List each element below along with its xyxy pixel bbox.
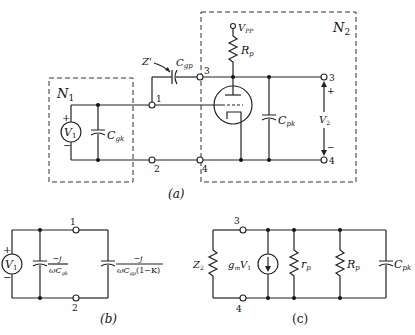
node-4-right-label: 4 bbox=[329, 156, 335, 166]
terminal-1-b bbox=[73, 227, 79, 233]
node-3-right-label: 3 bbox=[329, 73, 335, 83]
gm-v1-label: gmV1 bbox=[228, 259, 251, 271]
terminal-3-c bbox=[240, 227, 246, 233]
resistor-rp-small bbox=[290, 230, 298, 298]
v1-label: V1 bbox=[64, 126, 76, 140]
caption-b: (b) bbox=[100, 312, 117, 326]
z2-label: Z2 bbox=[192, 259, 204, 271]
rp-label-c: Rp bbox=[346, 258, 360, 272]
terminal-3-right bbox=[321, 74, 327, 80]
caption-a: (a) bbox=[168, 187, 185, 201]
terminal-4-left bbox=[197, 157, 203, 163]
n1-label: N1 bbox=[56, 86, 74, 103]
rp-small-label: rp bbox=[301, 258, 311, 272]
node-2-b: 2 bbox=[72, 303, 78, 313]
terminal-2-b bbox=[73, 295, 79, 301]
v1-plus: + bbox=[62, 112, 70, 123]
z2-numerator: −j bbox=[133, 254, 143, 263]
vpp-label: VPP bbox=[238, 22, 254, 34]
resistor-rp-c bbox=[336, 230, 344, 298]
plus-b: + bbox=[3, 244, 11, 255]
figure-c: 3 4 Z2 gmV1 rp Rp Cpk (c) bbox=[192, 216, 411, 326]
tube-cathode bbox=[227, 112, 241, 160]
node-3-c: 3 bbox=[234, 216, 240, 226]
node-1-b: 1 bbox=[70, 217, 76, 227]
v2-label: V2 bbox=[319, 114, 330, 126]
terminal-1 bbox=[149, 102, 155, 108]
terminal-4-c bbox=[240, 295, 246, 301]
cgk-label: Cgk bbox=[107, 129, 124, 143]
terminal-2 bbox=[149, 157, 155, 163]
figure-b: V1 + − −j ωCgk 1 2 −j ωCgp(1−K) (b) bbox=[2, 217, 163, 326]
vpp-terminal bbox=[231, 24, 236, 29]
node-1-label: 1 bbox=[156, 94, 162, 104]
z1-numerator: −j bbox=[52, 254, 62, 263]
z-prime-label: Z' bbox=[141, 56, 152, 67]
z1-denominator: ωCgk bbox=[49, 266, 68, 277]
node-3-label: 3 bbox=[204, 66, 210, 76]
node-4-c: 4 bbox=[236, 304, 242, 314]
v1-label-b: V1 bbox=[5, 258, 17, 272]
cgp-label: Cgp bbox=[176, 57, 193, 70]
v1-minus: − bbox=[63, 140, 71, 151]
node-2-label: 2 bbox=[154, 164, 160, 174]
figure-a: N1 N2 V1 + − Cgk 1 2 3 Cgp Z' bbox=[49, 12, 356, 201]
n2-label: N2 bbox=[332, 20, 350, 37]
v2-minus: − bbox=[327, 142, 335, 152]
circuit-figure: N1 N2 V1 + − Cgk 1 2 3 Cgp Z' bbox=[0, 0, 415, 335]
node-4-label: 4 bbox=[202, 164, 208, 174]
rp-label: Rp bbox=[240, 44, 254, 58]
v2-plus: + bbox=[327, 86, 335, 96]
minus-b: − bbox=[3, 272, 11, 283]
impedance-z2 bbox=[209, 230, 217, 298]
resistor-rp bbox=[229, 28, 237, 77]
z2-denominator: ωCgp(1−K) bbox=[117, 266, 160, 277]
cpk-label: Cpk bbox=[278, 114, 295, 128]
terminal-4-right bbox=[321, 157, 327, 163]
cpk-label-c: Cpk bbox=[394, 258, 411, 272]
caption-c: (c) bbox=[292, 312, 308, 326]
terminal-3-left bbox=[197, 74, 203, 80]
